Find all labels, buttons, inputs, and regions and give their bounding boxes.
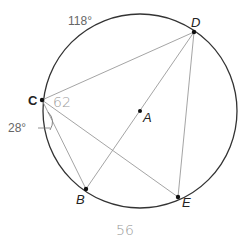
segment-CE [42,100,178,197]
arc-measure-label: 118° [68,14,92,28]
label-D: D [191,15,200,30]
angle-measure-label: 28° [8,121,26,135]
circle-diagram: C D A B E 118° 28° 62 56 [0,0,249,247]
label-A: A [142,110,152,125]
point-D [192,30,196,34]
point-E [176,195,180,199]
segment-CD [42,32,194,100]
point-B [84,187,88,191]
point-A [138,109,142,113]
label-E: E [182,195,191,210]
label-B: B [76,192,85,207]
handwritten-56: 56 [116,222,134,238]
point-C [40,98,44,102]
label-C: C [28,93,38,108]
segment-DE [178,32,194,197]
handwritten-62: 62 [53,94,71,110]
